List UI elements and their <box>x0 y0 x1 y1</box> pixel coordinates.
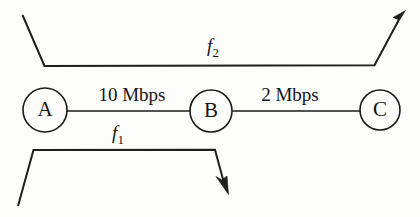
node-c-label: C <box>373 97 387 121</box>
link-a-b-group: 10 Mbps <box>67 84 190 111</box>
link-b-c-capacity-label: 2 Mbps <box>261 84 319 105</box>
flow-f2-group: f2 <box>23 11 406 67</box>
flow-f2-label-subscript: 2 <box>212 45 219 60</box>
node-a-label: A <box>37 97 53 121</box>
node-a-group: A <box>23 88 67 132</box>
flow-f1-label-subscript: 1 <box>117 132 124 147</box>
link-a-b-capacity-label: 10 Mbps <box>98 84 165 105</box>
node-b-label: B <box>204 98 218 122</box>
flow-f1-label: f1 <box>112 122 124 147</box>
flow-f1-path <box>18 150 224 206</box>
node-b-group: B <box>190 90 232 132</box>
flow-f1-group: f1 <box>18 122 229 206</box>
flow-f2-label: f2 <box>207 35 219 60</box>
node-c-group: C <box>360 90 400 130</box>
diagram-canvas: f2 10 Mbps 2 Mbps A B C <box>0 0 420 217</box>
flow-f2-arrowhead-icon <box>393 11 406 26</box>
link-b-c-group: 2 Mbps <box>233 84 360 111</box>
network-flow-diagram: f2 10 Mbps 2 Mbps A B C <box>0 0 420 217</box>
